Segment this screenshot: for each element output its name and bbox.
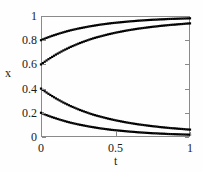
y-tick-mark bbox=[185, 64, 189, 65]
chart-data-layer bbox=[41, 16, 190, 137]
y-tick-mark bbox=[185, 16, 189, 17]
y-tick-label: 0.6 bbox=[22, 58, 37, 70]
chart-figure: 00.20.40.60.81 00.51 x t bbox=[0, 0, 203, 172]
y-tick-mark bbox=[185, 137, 189, 138]
y-tick-mark bbox=[42, 16, 46, 17]
y-tick-mark bbox=[185, 89, 189, 90]
y-tick-mark bbox=[42, 89, 46, 90]
y-tick-mark bbox=[42, 40, 46, 41]
y-tick-mark bbox=[185, 113, 189, 114]
y-tick-mark bbox=[42, 64, 46, 65]
x-tick-mark bbox=[190, 132, 191, 136]
x-tick-mark bbox=[116, 132, 117, 136]
y-tick-label: 1 bbox=[31, 10, 37, 22]
x-tick-mark bbox=[41, 132, 42, 136]
x-axis-title: t bbox=[114, 155, 117, 167]
y-tick-label: 0.8 bbox=[22, 34, 37, 46]
x-tick-label: 0.5 bbox=[108, 142, 123, 154]
data-series bbox=[40, 22, 191, 65]
y-tick-mark bbox=[42, 137, 46, 138]
y-tick-mark bbox=[185, 40, 189, 41]
y-axis-title: x bbox=[5, 67, 11, 79]
x-tick-label: 1 bbox=[187, 142, 193, 154]
y-tick-mark bbox=[42, 113, 46, 114]
data-series bbox=[40, 88, 191, 131]
y-tick-label: 0.2 bbox=[22, 107, 37, 119]
data-series bbox=[40, 17, 191, 41]
y-tick-label: 0.4 bbox=[22, 83, 37, 95]
y-tick-label: 0 bbox=[31, 131, 37, 143]
x-tick-label: 0 bbox=[38, 142, 44, 154]
